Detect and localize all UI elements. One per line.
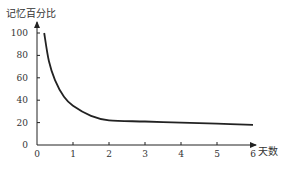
x-tick-label: 6 xyxy=(250,149,256,159)
y-tick-label: 80 xyxy=(17,50,29,60)
y-tick-label: 20 xyxy=(17,118,29,128)
x-tick-label: 0 xyxy=(34,149,40,159)
x-tick-label: 5 xyxy=(214,149,220,159)
y-tick-label: 100 xyxy=(11,28,28,38)
axes xyxy=(37,22,256,145)
x-tick-label: 4 xyxy=(178,149,184,159)
forgetting-curve-line xyxy=(44,33,253,125)
x-axis-label: 天数 xyxy=(258,145,278,157)
y-axis-label: 记忆百分比 xyxy=(6,7,56,19)
y-tick-label: 60 xyxy=(17,73,29,83)
y-ticks: 020406080100 xyxy=(11,28,40,150)
x-tick-label: 1 xyxy=(70,149,76,159)
y-tick-label: 0 xyxy=(22,140,28,150)
x-tick-label: 2 xyxy=(106,149,112,159)
chart: 0123456 020406080100 记忆百分比 天数 xyxy=(0,0,287,175)
y-tick-label: 40 xyxy=(17,95,29,105)
x-tick-label: 3 xyxy=(142,149,148,159)
